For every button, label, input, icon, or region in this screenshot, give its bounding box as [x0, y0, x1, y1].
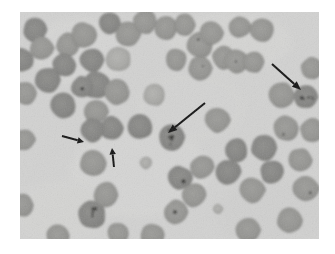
figure-root: Grayscale light micrograph of a blood sm…: [0, 0, 335, 254]
blood-smear-micrograph: [20, 12, 319, 239]
film-grain-overlay: [20, 12, 319, 239]
micrograph-canvas: [20, 12, 319, 239]
